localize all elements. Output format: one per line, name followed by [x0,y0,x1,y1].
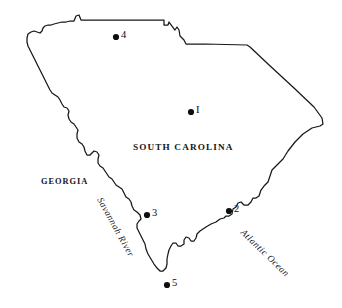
map-marker-label-1: I [196,105,200,116]
neighbor-state-label-georgia: GEORGIA [41,178,88,186]
map-marker-label-5: 5 [172,278,177,289]
map-marker-label-2: 2 [234,204,239,215]
map-marker-dot-2[interactable] [226,208,232,214]
map-marker-label-4: 4 [121,30,126,41]
map-marker-label-3: 3 [152,208,157,219]
map-marker-dot-3[interactable] [144,212,150,218]
map-marker-dot-4[interactable] [113,34,119,40]
state-name-label: SOUTH CAROLINA [133,143,234,152]
map-outline-svg [0,0,342,308]
map-marker-dot-1[interactable] [188,109,194,115]
map-marker-dot-5[interactable] [164,282,170,288]
south-carolina-map-figure: SOUTH CAROLINA GEORGIA Savannah River At… [0,0,342,308]
